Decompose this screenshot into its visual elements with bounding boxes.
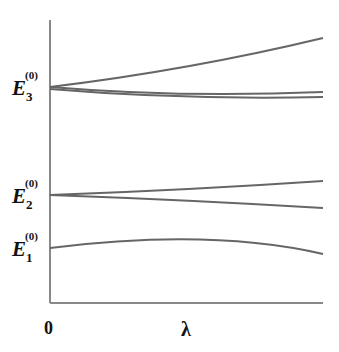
level-label-e1: E1(0): [12, 237, 33, 262]
level-curve: [50, 239, 323, 254]
energy-diagram: [0, 0, 339, 352]
origin-label: 0: [44, 318, 53, 339]
level-label-e2: E2(0): [12, 184, 33, 209]
level-label-e3: E3(0): [12, 76, 33, 101]
level-curve: [50, 181, 323, 195]
x-axis-label: λ: [181, 318, 191, 341]
level-curve: [50, 38, 323, 87]
level-curve: [50, 195, 323, 208]
